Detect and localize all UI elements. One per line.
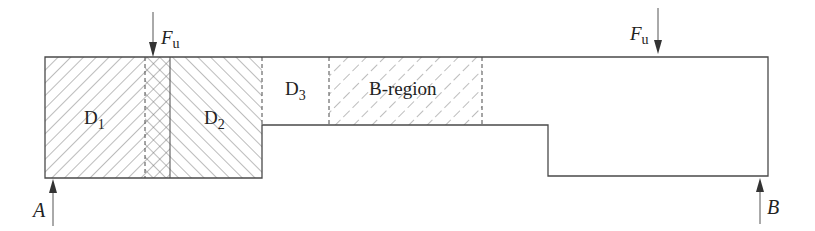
label-support-a: A xyxy=(31,199,46,221)
strut-and-tie-diagram: D1 D2 D3 B-region Fu Fu A B xyxy=(0,0,815,231)
support-arrow-b-icon xyxy=(756,178,764,224)
label-support-b: B xyxy=(767,196,779,218)
force-arrow-right-icon xyxy=(654,8,662,54)
label-force-left: Fu xyxy=(160,27,180,51)
force-arrow-left-icon xyxy=(149,12,157,57)
label-d3: D3 xyxy=(285,78,306,103)
label-b-region: B-region xyxy=(369,78,437,99)
support-arrow-a-icon xyxy=(49,179,57,226)
label-force-right: Fu xyxy=(629,23,649,47)
